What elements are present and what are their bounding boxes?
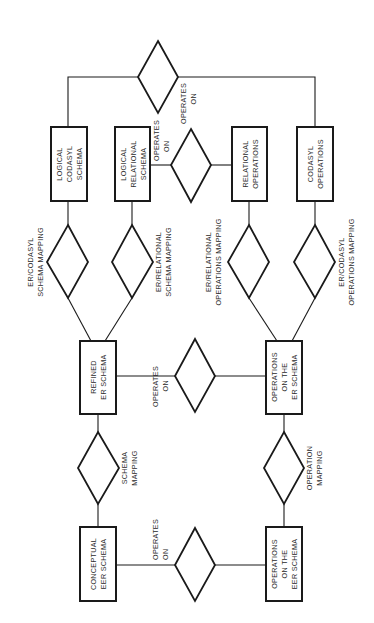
label-line: OPERATIONS <box>270 539 279 589</box>
label-line: ON <box>162 141 171 152</box>
label-line: OPERATIONS <box>270 352 279 402</box>
relationship-diamonds <box>47 41 335 601</box>
label-line: RELATIONAL <box>129 140 138 187</box>
diamond-refined-operates-on <box>175 339 215 412</box>
label-line: EER SCHEMA <box>99 539 108 590</box>
connector-line <box>178 77 315 127</box>
connector-line <box>105 298 132 341</box>
label-line: LOGICAL <box>55 147 64 180</box>
label-line: ON THE <box>280 550 289 579</box>
label-conceptual-operates-on: OPERATES ON <box>151 519 170 560</box>
entity-codasyl-operations <box>297 127 333 201</box>
label-line: CONCEPTUAL <box>89 538 98 590</box>
connector-line <box>292 298 315 341</box>
label-line: SCHEMA MAPPING <box>36 227 45 297</box>
diamond-er-codasyl-operations-mapping <box>294 225 335 298</box>
label-line: ER/RELATIONAL <box>204 232 213 292</box>
diamond-er-relational-operations-mapping <box>228 225 269 298</box>
diamond-er-codasyl-schema-mapping <box>47 225 88 298</box>
label-line: RELATIONAL <box>241 140 250 187</box>
label-line: ON <box>189 93 198 104</box>
diamond-relational-operates-on <box>171 129 211 202</box>
diamond-conceptual-operates-on <box>175 528 215 601</box>
label-line: CODASYL <box>306 146 315 182</box>
connector-line <box>249 298 277 341</box>
label-line: OPERATIONS <box>251 139 260 189</box>
label-er-relational-operations-mapping: ER/RELATIONAL OPERATIONS MAPPING <box>204 218 223 305</box>
label-logical-codasyl-schema: LOGICAL CODASYL SCHEMA <box>55 146 84 182</box>
label-line: SCHEMA <box>75 148 84 181</box>
label-line: OPERATIONS MAPPING <box>214 218 223 305</box>
label-line: REFINED <box>89 360 98 394</box>
label-line: ER/RELATIONAL <box>154 232 163 292</box>
label-refined-operates-on: OPERATES ON <box>151 366 170 407</box>
label-line: OPERATION <box>305 446 314 491</box>
label-codasyl-operations: CODASYL OPERATIONS <box>306 139 325 189</box>
label-operation-mapping: OPERATION MAPPING <box>305 446 324 491</box>
label-line: OPERATES <box>151 366 160 407</box>
connector-line <box>68 77 138 127</box>
label-conceptual-eer-schema: CONCEPTUAL EER SCHEMA <box>89 538 108 590</box>
label-line: ER SCHEMA <box>290 354 299 399</box>
label-line: ER/CODASYL <box>26 237 35 286</box>
label-relational-operates-on: OPERATES ON <box>152 120 171 161</box>
label-line: EER SCHEMA <box>290 539 299 590</box>
label-schema-mapping: SCHEMA MAPPING <box>120 450 139 485</box>
er-mapping-diagram: LOGICAL CODASYL SCHEMA LOGICAL RELATIONA… <box>0 0 374 623</box>
label-line: OPERATIONS <box>316 139 325 189</box>
label-refined-er-schema: REFINED ER SCHEMA <box>89 354 108 399</box>
entity-conceptual-eer-schema <box>80 527 116 601</box>
label-line: ON THE <box>280 363 289 392</box>
label-line: LOGICAL <box>119 147 128 180</box>
label-er-codasyl-operations-mapping: ER/CODASYL OPERATIONS MAPPING <box>337 218 356 305</box>
label-line: OPERATES <box>151 519 160 560</box>
connector-line <box>68 298 91 341</box>
label-line: MAPPING <box>315 450 324 485</box>
label-line: ER SCHEMA <box>99 354 108 399</box>
label-er-relational-schema-mapping: ER/RELATIONAL SCHEMA MAPPING <box>154 227 173 297</box>
entity-refined-er-schema <box>80 341 116 414</box>
label-line: ON <box>161 380 170 391</box>
diamond-schema-mapping <box>78 432 119 504</box>
label-line: SCHEMA <box>120 452 129 485</box>
diamond-operation-mapping <box>264 432 304 504</box>
label-line: OPERATES <box>152 120 161 161</box>
label-line: ER/CODASYL <box>337 237 346 286</box>
label-line: ON <box>161 549 170 560</box>
label-line: SCHEMA <box>139 148 148 181</box>
diamond-er-relational-schema-mapping <box>112 225 153 298</box>
entity-relational-operations <box>232 127 267 201</box>
label-line: CODASYL <box>65 146 74 182</box>
label-relational-operations: RELATIONAL OPERATIONS <box>241 139 260 189</box>
label-line: MAPPING <box>130 450 139 485</box>
diamond-top-operates-on <box>138 41 178 113</box>
label-line: SCHEMA MAPPING <box>164 227 173 297</box>
label-er-codasyl-schema-mapping: ER/CODASYL SCHEMA MAPPING <box>26 227 45 297</box>
label-line: OPERATIONS MAPPING <box>347 218 356 305</box>
label-line: OPERATES <box>179 83 188 124</box>
label-top-operates-on: OPERATES ON <box>179 83 198 124</box>
